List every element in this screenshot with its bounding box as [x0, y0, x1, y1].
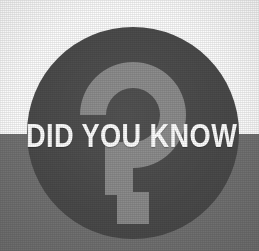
did-you-know-graphic: DID YOU KNOW — [0, 0, 259, 251]
page-title: DID YOU KNOW — [26, 115, 233, 155]
